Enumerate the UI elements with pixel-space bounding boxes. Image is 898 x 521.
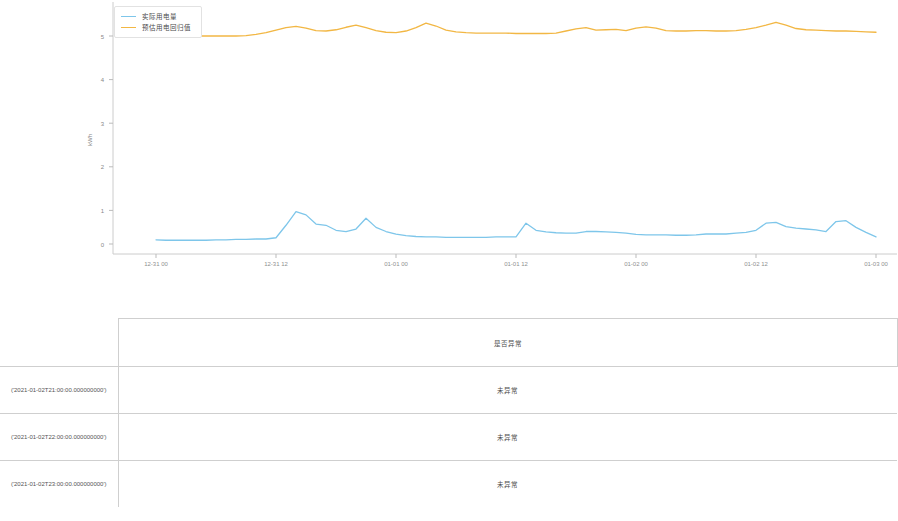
y-tick-label: 0 <box>101 242 105 248</box>
table-cell-status: 未异常 <box>118 367 897 414</box>
legend-color-swatch <box>121 27 136 28</box>
x-tick-label: 01-01 00 <box>384 261 408 267</box>
y-tick-label: 3 <box>101 121 105 127</box>
legend-item-label: 预估用电回归值 <box>142 23 191 33</box>
y-axis-ticks: 5 4 3 2 1 0 <box>101 34 113 248</box>
x-tick-label: 12-31 12 <box>264 261 288 267</box>
x-tick-label: 01-02 00 <box>624 261 648 267</box>
table-header-status: 是否异常 <box>118 319 897 367</box>
x-tick-label: 01-02 12 <box>744 261 768 267</box>
table-cell-index: ('2021-01-02T22:00:00.000000000') <box>0 414 118 461</box>
y-axis-title: kWh <box>87 134 93 146</box>
table-row[interactable]: ('2021-01-02T21:00:00.000000000') 未异常 <box>0 367 897 414</box>
x-tick-label: 01-03 00 <box>864 261 888 267</box>
chart-panel: 5 4 3 2 1 0 kWh 12-31 00 12-31 12 01-01 … <box>0 0 897 300</box>
y-tick-label: 4 <box>101 77 105 83</box>
legend-item-actual[interactable]: 实际用电量 <box>121 11 191 22</box>
legend-item-estimate[interactable]: 预估用电回归值 <box>121 22 191 33</box>
table-body: ('2021-01-02T21:00:00.000000000') 未异常 ('… <box>0 367 897 508</box>
table-header-row: 是否异常 <box>0 319 897 367</box>
legend-item-label: 实际用电量 <box>142 12 177 22</box>
x-tick-label: 01-01 12 <box>504 261 528 267</box>
y-tick-label: 2 <box>101 164 105 170</box>
table-row[interactable]: ('2021-01-02T23:00:00.000000000') 未异常 <box>0 461 897 508</box>
line-chart: 5 4 3 2 1 0 kWh 12-31 00 12-31 12 01-01 … <box>0 0 897 300</box>
x-axis-ticks: 12-31 00 12-31 12 01-01 00 01-01 12 01-0… <box>144 254 888 267</box>
results-table: 是否异常 ('2021-01-02T21:00:00.000000000') 未… <box>0 318 898 507</box>
table-cell-index: ('2021-01-02T23:00:00.000000000') <box>0 461 118 508</box>
plot-area-background <box>113 2 897 254</box>
table-panel: 是否异常 ('2021-01-02T21:00:00.000000000') 未… <box>0 318 897 507</box>
y-tick-label: 5 <box>101 34 105 40</box>
x-tick-label: 12-31 00 <box>144 261 168 267</box>
chart-legend: 实际用电量 预估用电回归值 <box>114 6 202 38</box>
table-row[interactable]: ('2021-01-02T22:00:00.000000000') 未异常 <box>0 414 897 461</box>
table-cell-status: 未异常 <box>118 414 897 461</box>
legend-color-swatch <box>121 16 136 17</box>
table-cell-status: 未异常 <box>118 461 897 508</box>
y-tick-label: 1 <box>101 208 105 214</box>
table-header-index <box>0 319 118 367</box>
table-cell-index: ('2021-01-02T21:00:00.000000000') <box>0 367 118 414</box>
